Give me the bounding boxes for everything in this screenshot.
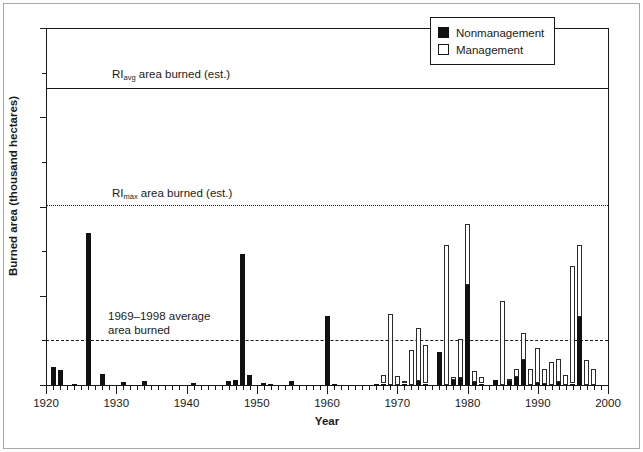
ri-avg-subscript: avg xyxy=(124,73,136,82)
bar-segment-nonmanagement-1971 xyxy=(402,384,407,386)
bar-segment-management-1982 xyxy=(479,377,484,384)
bar-1968 xyxy=(381,28,386,385)
x-tick-label-2000: 2000 xyxy=(595,397,621,409)
bar-1922 xyxy=(58,28,63,385)
x-tick-1957 xyxy=(306,385,307,390)
bar-1998 xyxy=(591,28,596,385)
x-tick-1940 xyxy=(187,385,188,394)
x-tick-1950 xyxy=(257,385,258,394)
x-tick-1936 xyxy=(158,385,159,390)
bar-segment-management-1981 xyxy=(472,371,477,382)
legend-swatch-nonmanagement-icon xyxy=(438,27,449,38)
x-tick-2000 xyxy=(608,385,609,394)
bar-1972 xyxy=(409,28,414,385)
x-tick-label-1990: 1990 xyxy=(525,397,551,409)
bar-segment-nonmanagement-1931 xyxy=(121,382,126,385)
x-tick-1932 xyxy=(130,385,131,390)
legend-item-nonmanagement: Nonmanagement xyxy=(438,24,544,41)
bar-segment-nonmanagement-1980 xyxy=(465,285,470,385)
x-tick-1989 xyxy=(531,385,532,390)
x-tick-1925 xyxy=(81,385,82,390)
x-tick-1970 xyxy=(397,385,398,394)
bar-segment-management-1992 xyxy=(549,362,554,385)
bar-segment-nonmanagement-1976 xyxy=(437,352,442,385)
x-tick-1986 xyxy=(510,385,511,390)
y-axis-title: Burned area (thousand hectares) xyxy=(7,21,19,351)
bar-segment-management-1995 xyxy=(570,266,575,384)
x-tick-1987 xyxy=(517,385,518,390)
bar-segment-nonmanagement-1960 xyxy=(325,316,330,385)
bar-segment-nonmanagement-1949 xyxy=(247,375,252,385)
x-tick-1968 xyxy=(383,385,384,390)
x-tick-1930 xyxy=(116,385,117,394)
x-tick-1921 xyxy=(53,385,54,390)
bar-1970 xyxy=(395,28,400,385)
bar-1981 xyxy=(472,28,477,385)
bar-segment-management-1993 xyxy=(556,359,561,382)
x-tick-1985 xyxy=(503,385,504,390)
x-tick-1979 xyxy=(460,385,461,390)
annotation-line-1: 1969–1998 average xyxy=(108,309,210,323)
bar-1978 xyxy=(451,28,456,385)
bar-segment-management-1985 xyxy=(500,301,505,385)
bar-segment-management-1989 xyxy=(528,369,533,385)
x-tick-1944 xyxy=(215,385,216,390)
x-tick-1976 xyxy=(439,385,440,390)
bar-segment-nonmanagement-1934 xyxy=(142,381,147,385)
bar-segment-nonmanagement-1948 xyxy=(240,254,245,385)
bar-1985 xyxy=(500,28,505,385)
bar-1946 xyxy=(226,28,231,385)
bar-segment-management-1986 xyxy=(507,379,512,381)
bar-segment-nonmanagement-1988 xyxy=(521,360,526,385)
bar-1971 xyxy=(402,28,407,385)
bar-segment-nonmanagement-1922 xyxy=(58,370,63,385)
bar-1993 xyxy=(556,28,561,385)
bar-1926 xyxy=(86,28,91,385)
x-tick-1948 xyxy=(243,385,244,390)
ri-avg-reference-label: RIavg area burned (est.) xyxy=(112,68,230,80)
x-tick-1927 xyxy=(95,385,96,390)
x-tick-1966 xyxy=(369,385,370,390)
bar-1948 xyxy=(240,28,245,385)
bar-1994 xyxy=(563,28,568,385)
x-tick-1991 xyxy=(545,385,546,390)
bar-segment-nonmanagement-1955 xyxy=(289,381,294,385)
x-tick-1994 xyxy=(566,385,567,390)
x-tick-1998 xyxy=(594,385,595,390)
chart-legend: Nonmanagement Management xyxy=(430,17,555,65)
x-tick-1924 xyxy=(74,385,75,390)
x-tick-1956 xyxy=(299,385,300,390)
bar-segment-management-1974 xyxy=(423,345,428,384)
bar-segment-nonmanagement-1946 xyxy=(226,381,231,385)
bar-segment-nonmanagement-1967 xyxy=(374,384,379,386)
bar-segment-nonmanagement-1993 xyxy=(556,382,561,385)
x-tick-label-1940: 1940 xyxy=(174,397,200,409)
x-tick-1947 xyxy=(236,385,237,390)
plot-area: RIavg area burned (est.) RImax area burn… xyxy=(46,28,608,385)
x-tick-1975 xyxy=(432,385,433,390)
x-tick-1996 xyxy=(580,385,581,390)
bar-segment-management-1988 xyxy=(521,333,526,360)
bar-1952 xyxy=(268,28,273,385)
bar-1924 xyxy=(72,28,77,385)
x-tick-1988 xyxy=(524,385,525,390)
x-tick-label-1920: 1920 xyxy=(33,397,59,409)
bar-segment-nonmanagement-1941 xyxy=(191,383,196,385)
x-tick-1928 xyxy=(102,385,103,390)
bar-1991 xyxy=(542,28,547,385)
bar-1955 xyxy=(289,28,294,385)
bar-segment-nonmanagement-1982 xyxy=(479,384,484,386)
x-tick-1931 xyxy=(123,385,124,390)
x-tick-1963 xyxy=(348,385,349,390)
ri-max-suffix: area burned (est.) xyxy=(138,187,233,199)
bar-segment-management-1979 xyxy=(458,339,463,377)
x-tick-1977 xyxy=(446,385,447,390)
bar-1989 xyxy=(528,28,533,385)
x-tick-label-1950: 1950 xyxy=(244,397,270,409)
x-tick-1935 xyxy=(151,385,152,390)
bar-segment-nonmanagement-1995 xyxy=(570,384,575,386)
bar-segment-management-1978 xyxy=(451,377,456,379)
bar-1996 xyxy=(577,28,582,385)
bar-1951 xyxy=(261,28,266,385)
bar-segment-management-1996 xyxy=(577,245,582,316)
